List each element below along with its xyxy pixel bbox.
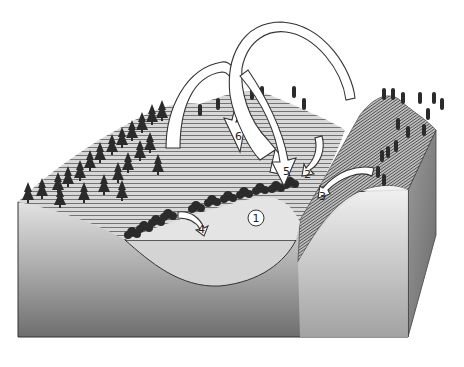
label-6: 6	[235, 130, 242, 143]
label-5: 5	[283, 165, 290, 178]
label-2: 2	[304, 168, 311, 181]
label-4: 4	[198, 223, 205, 236]
label-1: 1	[253, 212, 260, 225]
diagram-stage: 6 5 2 3 4 1	[0, 0, 464, 367]
label-3: 3	[319, 190, 326, 203]
lake-block-diagram: 6 5 2 3 4 1	[0, 0, 464, 367]
